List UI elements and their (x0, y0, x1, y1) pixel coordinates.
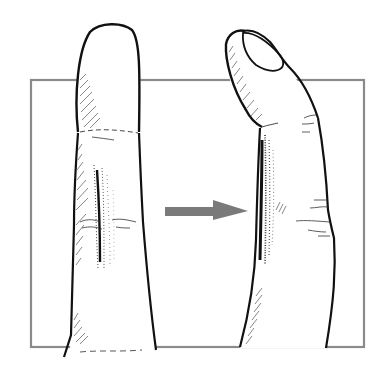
left-finger (64, 24, 156, 357)
right-finger (225, 31, 335, 348)
finger-illustration: Straight finger Finger with bent distal … (0, 0, 385, 368)
progression-arrow-icon (165, 200, 248, 220)
illustration-canvas (0, 0, 385, 368)
